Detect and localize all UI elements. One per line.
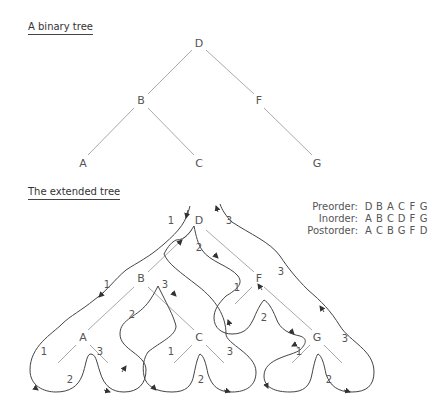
visit-label-c-3: 3 — [227, 346, 233, 357]
visit-label-c-1: 1 — [168, 346, 174, 357]
visit-label-a-2: 2 — [67, 374, 73, 385]
visit-label-a-1: 1 — [41, 346, 47, 357]
visit-label-d-2: 2 — [196, 242, 202, 253]
visit-label-g-3: 3 — [342, 333, 348, 344]
visit-label-a-3: 3 — [97, 346, 103, 357]
ext-node-d: D — [195, 214, 203, 227]
traversal-label: Inorder: — [300, 213, 363, 225]
seq-item: B — [374, 201, 385, 213]
visit-label-b-3: 3 — [162, 279, 168, 290]
visit-label-d-1: 1 — [168, 215, 174, 226]
binary-tree: D B F A C G — [79, 37, 321, 170]
ext-node-g: G — [313, 331, 322, 344]
traversal-sequence: ABCDFG — [363, 213, 429, 225]
node-b: B — [137, 94, 145, 107]
seq-item: D — [418, 225, 429, 237]
seq-item: C — [374, 225, 385, 237]
seq-item: F — [407, 225, 418, 237]
seq-item: G — [396, 225, 407, 237]
traversal-label: Preorder: — [300, 201, 363, 213]
visit-label-g-1: 1 — [296, 346, 302, 357]
visit-label-b-2: 2 — [129, 309, 135, 320]
seq-item: B — [385, 225, 396, 237]
traversal-sequence: ACBGFD — [363, 225, 429, 237]
traversal-table: Preorder: DBACFG Inorder: ABCDFG Postord… — [300, 201, 429, 237]
visit-label-b-1: 1 — [104, 279, 110, 290]
seq-item: D — [363, 201, 374, 213]
ext-node-a: A — [79, 331, 87, 344]
seq-item: C — [385, 213, 396, 225]
node-a: A — [79, 157, 87, 170]
ext-node-b: B — [137, 272, 145, 285]
seq-item: B — [374, 213, 385, 225]
visit-label-d-3: 3 — [226, 215, 232, 226]
traversal-row-preorder: Preorder: DBACFG — [300, 201, 429, 213]
ext-node-c: C — [195, 331, 203, 344]
ext-node-f: F — [256, 272, 262, 285]
node-g: G — [313, 157, 322, 170]
seq-item: G — [418, 201, 429, 213]
traversal-label: Postorder: — [300, 225, 363, 237]
node-d: D — [195, 37, 203, 50]
visit-label-c-2: 2 — [198, 374, 204, 385]
traversal-row-postorder: Postorder: ACBGFD — [300, 225, 429, 237]
seq-item: F — [407, 213, 418, 225]
node-c: C — [195, 157, 203, 170]
seq-item: F — [407, 201, 418, 213]
visit-label-f-2: 2 — [261, 312, 267, 323]
seq-item: C — [396, 201, 407, 213]
visit-label-f-1: 1 — [234, 282, 240, 293]
visit-label-g-2: 2 — [326, 374, 332, 385]
seq-item: G — [418, 213, 429, 225]
seq-item: A — [385, 201, 396, 213]
visit-label-f-3: 3 — [278, 266, 284, 277]
seq-item: A — [363, 213, 374, 225]
traversal-sequence: DBACFG — [363, 201, 429, 213]
seq-item: D — [396, 213, 407, 225]
traversal-row-inorder: Inorder: ABCDFG — [300, 213, 429, 225]
seq-item: A — [363, 225, 374, 237]
node-f: F — [256, 94, 262, 107]
